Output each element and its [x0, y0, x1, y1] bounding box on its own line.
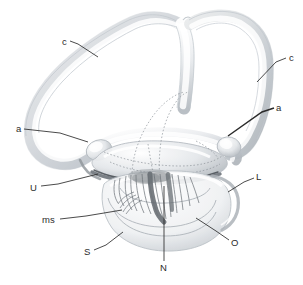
label-a-left: a	[16, 123, 22, 134]
label-l: L	[256, 171, 261, 182]
label-c-left: c	[62, 36, 67, 47]
label-a-right: a	[276, 102, 282, 113]
label-s: S	[84, 246, 90, 257]
labyrinth-illustration: c c a a U ms S N O L	[0, 0, 303, 285]
cochlea-body	[102, 171, 231, 251]
leader-u	[41, 174, 98, 186]
label-n: N	[160, 262, 167, 273]
label-c-right: c	[289, 52, 294, 63]
label-u: U	[30, 182, 37, 193]
label-ms: ms	[42, 214, 55, 225]
label-o: O	[231, 237, 238, 248]
inner-ear-figure: c c a a U ms S N O L	[0, 0, 303, 285]
crus-commune	[176, 17, 194, 108]
